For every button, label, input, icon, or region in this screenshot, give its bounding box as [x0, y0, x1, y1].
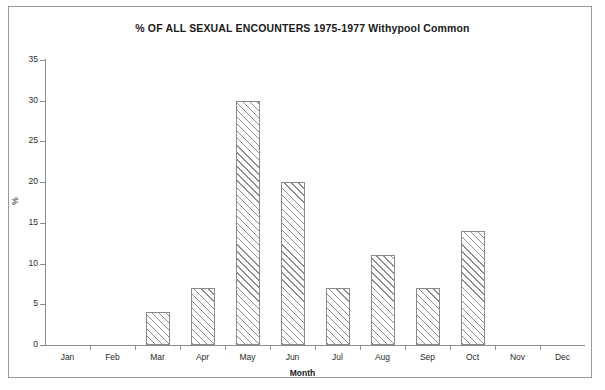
- bar: [416, 288, 440, 345]
- y-axis-tick: [40, 141, 45, 142]
- y-axis-tick: [40, 60, 45, 61]
- x-axis-tick: [315, 345, 316, 350]
- x-axis-tick: [225, 345, 226, 350]
- y-axis-tick-label: 15: [16, 218, 38, 227]
- y-axis-tick-label: 25: [16, 136, 38, 145]
- chart-title: % OF ALL SEXUAL ENCOUNTERS 1975-1977 Wit…: [0, 22, 605, 34]
- y-axis-tick-label: 20: [16, 177, 38, 186]
- x-axis-tick-label: Jun: [270, 353, 316, 362]
- bar: [281, 182, 305, 345]
- x-axis-tick-label: Feb: [90, 353, 136, 362]
- x-axis-tick-label: Sep: [405, 353, 451, 362]
- y-axis-tick-label: 0: [16, 340, 38, 349]
- x-axis-label: Month: [0, 368, 605, 378]
- bar: [326, 288, 350, 345]
- y-axis-tick-label: 5: [16, 299, 38, 308]
- x-axis-tick: [180, 345, 181, 350]
- x-axis-tick: [405, 345, 406, 350]
- x-axis-tick: [360, 345, 361, 350]
- y-axis-tick-label: 10: [16, 259, 38, 268]
- bar: [236, 101, 260, 345]
- y-axis-tick: [40, 223, 45, 224]
- bar: [146, 312, 170, 345]
- bar: [461, 231, 485, 345]
- x-axis-tick-label: Jul: [315, 353, 361, 362]
- x-axis-tick-label: Aug: [360, 353, 406, 362]
- y-axis-tick: [40, 345, 45, 346]
- x-axis-tick: [540, 345, 541, 350]
- x-axis-tick: [270, 345, 271, 350]
- y-axis-label: %: [10, 197, 20, 205]
- x-axis-tick: [495, 345, 496, 350]
- bar: [191, 288, 215, 345]
- x-axis-tick: [450, 345, 451, 350]
- x-axis-tick-label: Oct: [450, 353, 496, 362]
- y-axis-tick: [40, 264, 45, 265]
- x-axis-tick-label: Apr: [180, 353, 226, 362]
- y-axis-tick-label: 35: [16, 55, 38, 64]
- y-axis-line: [45, 59, 46, 346]
- x-axis-tick-label: May: [225, 353, 271, 362]
- bar: [371, 255, 395, 345]
- chart-container: % OF ALL SEXUAL ENCOUNTERS 1975-1977 Wit…: [0, 0, 605, 390]
- x-axis-tick-label: Nov: [495, 353, 541, 362]
- x-axis-tick-label: Mar: [135, 353, 181, 362]
- y-axis-tick: [40, 304, 45, 305]
- x-axis-tick-label: Dec: [540, 353, 586, 362]
- x-axis-tick: [90, 345, 91, 350]
- x-axis-tick-label: Jan: [45, 353, 91, 362]
- y-axis-tick: [40, 182, 45, 183]
- y-axis-tick-label: 30: [16, 96, 38, 105]
- y-axis-tick: [40, 101, 45, 102]
- x-axis-tick: [135, 345, 136, 350]
